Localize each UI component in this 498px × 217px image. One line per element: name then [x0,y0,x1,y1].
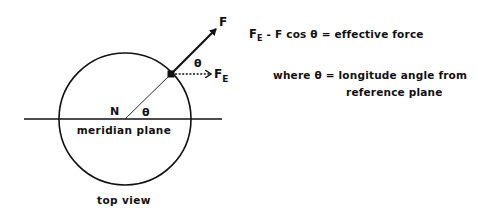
effective-force-label: FE [214,67,228,84]
definition-line-2: reference plane [346,86,443,98]
north-label: N [110,105,119,118]
force-label: F [219,15,227,29]
equation: FE - F cos θ = effective force [249,27,424,43]
meridian-plane-label: meridian plane [77,124,172,136]
application-point [168,71,175,78]
equation-lhs: F [249,27,257,41]
theta-upper-label: θ [194,57,202,70]
top-view-caption: top view [97,194,151,206]
theta-lower-label: θ [142,106,150,119]
definition-line-1: where θ = longitude angle from [273,69,467,81]
equation-rhs: - F cos θ = effective force [263,28,424,40]
